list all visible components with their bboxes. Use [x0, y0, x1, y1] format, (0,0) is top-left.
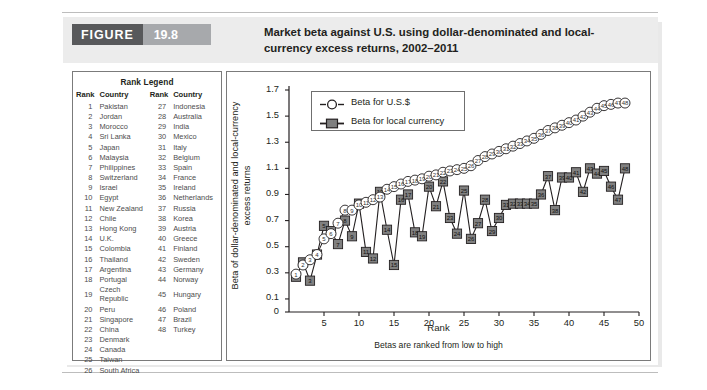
country-cell-right — [173, 365, 221, 375]
country-cell-right: Ireland — [173, 183, 221, 193]
rank-cell-right — [147, 365, 173, 375]
rank-cell-right: 28 — [147, 112, 173, 122]
country-cell-left: Philippines — [99, 163, 146, 173]
rank-cell-right: 45 — [147, 285, 173, 304]
rank-cell-left: 14 — [73, 234, 99, 244]
rank-cell-right: 27 — [147, 102, 173, 112]
rank-cell-right — [147, 345, 173, 355]
rank-cell-right: 46 — [147, 304, 173, 314]
chart-frame: Beta of dollar-denominated and local-cur… — [226, 71, 651, 361]
rank-cell-left: 13 — [73, 224, 99, 234]
country-cell-left: New Zealand — [99, 203, 146, 213]
rank-cell-right — [147, 355, 173, 365]
rank-legend-row: 2Jordan28Australia — [73, 112, 221, 122]
country-cell-left: South Africa — [99, 365, 146, 375]
data-point-rank-label: 46 — [608, 184, 615, 190]
rank-cell-right: 33 — [147, 163, 173, 173]
rank-cell-right — [147, 335, 173, 345]
data-point-rank-label: 38 — [552, 208, 559, 214]
figure-badge-word: FIGURE — [72, 24, 143, 45]
rank-legend-header-rank-right: Rank — [147, 90, 173, 102]
country-cell-left: Egypt — [99, 193, 146, 203]
rank-legend-header-row: Rank Country Rank Country — [73, 90, 221, 102]
data-point-rank-label: 25 — [461, 188, 468, 194]
y-tick-label: 0.3 — [253, 266, 279, 276]
rank-cell-left: 21 — [73, 314, 99, 324]
country-cell-left: Portugal — [99, 274, 146, 284]
rank-legend-box: Rank Legend Rank Country Rank Country 1P… — [72, 71, 222, 361]
data-point-rank-label: 24 — [454, 231, 461, 237]
rank-cell-right: 39 — [147, 224, 173, 234]
rank-cell-left: 12 — [73, 213, 99, 223]
chart-legend-item-local: Beta for local currency — [312, 111, 464, 130]
y-tick-label: 0.7 — [253, 214, 279, 224]
figure-body: Rank Legend Rank Country Rank Country 1P… — [63, 63, 658, 365]
data-point-rank-label: 36 — [538, 192, 545, 198]
rank-cell-left: 19 — [73, 285, 99, 304]
rank-legend-row: 23Denmark — [73, 335, 221, 345]
rank-legend-table: Rank Country Rank Country 1Pakistan27Ind… — [73, 90, 221, 375]
rank-cell-right: 30 — [147, 132, 173, 142]
rank-legend-row: 1Pakistan27Indonesia — [73, 102, 221, 112]
rank-cell-right: 43 — [147, 264, 173, 274]
country-cell-right: Finland — [173, 244, 221, 254]
x-axis-label: Rank — [227, 322, 650, 333]
filled-square-marker-icon — [319, 115, 345, 126]
rank-legend-row: 3Morocco29India — [73, 122, 221, 132]
y-tick-label: 1.1 — [253, 162, 279, 172]
rank-cell-left: 11 — [73, 203, 99, 213]
rank-legend-header-country-right: Country — [173, 90, 221, 102]
country-cell-left: Malaysia — [99, 152, 146, 162]
country-cell-left: Japan — [99, 142, 146, 152]
country-cell-right — [173, 335, 221, 345]
rank-cell-left: 25 — [73, 355, 99, 365]
country-cell-right — [173, 345, 221, 355]
y-tick-label: 0.9 — [253, 188, 279, 198]
country-cell-left: Peru — [99, 304, 146, 314]
rank-legend-row: 16Thailand42Sweden — [73, 254, 221, 264]
country-cell-right: Brazil — [173, 314, 221, 324]
rank-legend-row: 9Israel35Ireland — [73, 183, 221, 193]
country-cell-right: Sweden — [173, 254, 221, 264]
country-cell-left: China — [99, 324, 146, 334]
rank-cell-left: 8 — [73, 173, 99, 183]
country-cell-left: Singapore — [99, 314, 146, 324]
country-cell-left: Morocco — [99, 122, 146, 132]
rank-cell-right: 32 — [147, 152, 173, 162]
figure-panel: FIGURE 19.8 Market beta against U.S. usi… — [63, 17, 658, 365]
rank-legend-row: 17Argentina43Germany — [73, 264, 221, 274]
data-point-rank-label: 26 — [468, 236, 475, 242]
rank-legend-row: 10Egypt36Netherlands — [73, 193, 221, 203]
rank-legend-row: 7Philippines33Spain — [73, 163, 221, 173]
data-point-rank-label: 23 — [447, 215, 454, 221]
rank-cell-right: 40 — [147, 234, 173, 244]
country-cell-right: Australia — [173, 112, 221, 122]
data-point-rank-label: 14 — [384, 227, 391, 233]
country-cell-right: India — [173, 122, 221, 132]
country-cell-right: Norway — [173, 274, 221, 284]
rank-cell-left: 18 — [73, 274, 99, 284]
country-cell-right: Indonesia — [173, 102, 221, 112]
data-point-rank-label: 48 — [622, 100, 629, 106]
figure-badge-number: 19.8 — [143, 24, 211, 45]
rank-cell-right: 47 — [147, 314, 173, 324]
country-cell-right: Greece — [173, 234, 221, 244]
rank-cell-left: 10 — [73, 193, 99, 203]
country-cell-right: Netherlands — [173, 193, 221, 203]
country-cell-left: Israel — [99, 183, 146, 193]
figure-badge: FIGURE 19.8 — [72, 24, 211, 45]
y-tick-label: 0.5 — [253, 240, 279, 250]
figure-header: FIGURE 19.8 Market beta against U.S. usi… — [63, 17, 658, 63]
rank-cell-left: 6 — [73, 152, 99, 162]
rank-legend-row: 11New Zealand37Russia — [73, 203, 221, 213]
rank-cell-right: 37 — [147, 203, 173, 213]
data-point-rank-label: 12 — [370, 256, 377, 262]
rank-cell-left: 7 — [73, 163, 99, 173]
data-point-rank-label: 47 — [615, 197, 622, 203]
data-point-rank-label: 17 — [405, 192, 412, 198]
chart-legend: Beta for U.S.$ Beta for local currency — [311, 91, 465, 131]
data-point-rank-label: 20 — [426, 184, 433, 190]
chart-legend-item-usd: Beta for U.S.$ — [312, 92, 464, 111]
top-divider — [62, 12, 658, 13]
chart-legend-label-usd: Beta for U.S.$ — [351, 96, 410, 107]
